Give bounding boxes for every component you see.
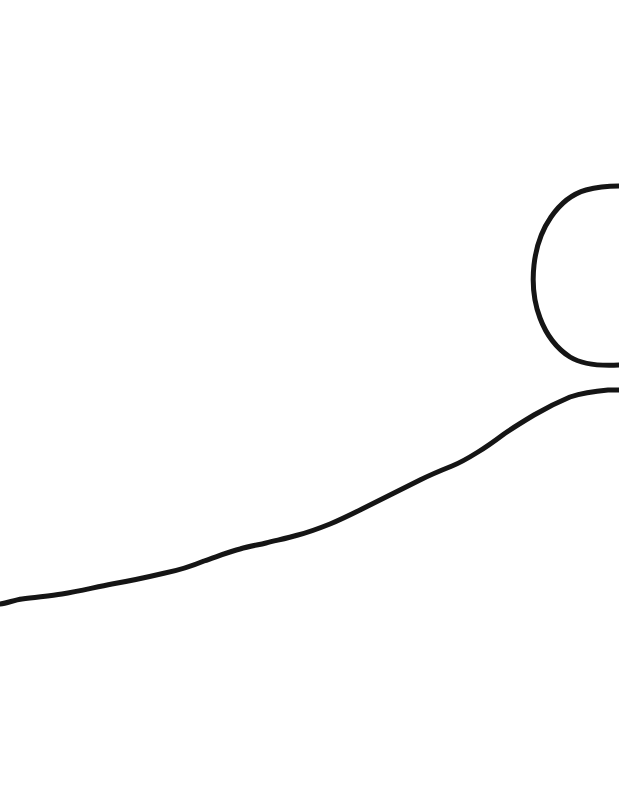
drawing-canvas xyxy=(0,0,619,791)
canvas-background xyxy=(0,0,619,791)
ink-drawing-surface xyxy=(0,0,619,791)
